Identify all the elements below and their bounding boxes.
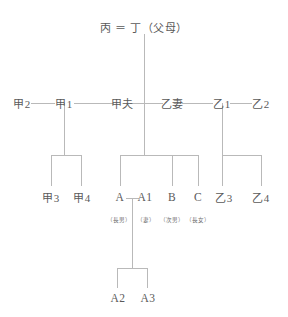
node-jia4: 甲4	[73, 189, 90, 205]
node-jia3: 甲3	[42, 189, 59, 205]
node-a2: A2	[110, 292, 125, 304]
node-b: B	[168, 191, 176, 203]
node-yi3: 乙3	[215, 189, 232, 205]
node-jiafu: 甲夫	[111, 95, 134, 111]
family-tree-diagram	[0, 0, 288, 317]
connector-lines	[31, 34, 262, 288]
node-yiqi: 乙妻	[161, 95, 184, 111]
node-a1: A1	[137, 191, 152, 203]
node-jia1: 甲1	[55, 95, 72, 111]
kin-label-a: （長男）	[107, 216, 131, 224]
node-yi2: 乙2	[252, 95, 269, 111]
node-c: C	[194, 191, 202, 203]
node-a3: A3	[140, 292, 155, 304]
kin-label-b: （次男）	[160, 216, 184, 224]
kin-label-c: （長女）	[186, 216, 210, 224]
node-yi4: 乙4	[252, 189, 269, 205]
node-a: A	[116, 191, 125, 203]
node-yi1: 乙1	[213, 95, 230, 111]
node-jia2: 甲2	[13, 95, 30, 111]
kin-label-a1: （妻）	[137, 216, 155, 224]
gen1-parents-couple: 丙 ＝ 丁（父母）	[100, 19, 188, 35]
